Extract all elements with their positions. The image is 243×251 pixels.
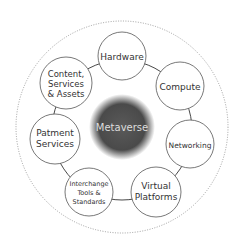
svg-text:Virtual: Virtual xyxy=(141,181,170,191)
svg-text:Services: Services xyxy=(48,79,84,89)
node-content: Content, Services & Assets xyxy=(40,57,92,109)
metaverse-diagram: Metaverse Hardware Compute Networking Vi… xyxy=(0,0,243,251)
svg-text:& Assets: & Assets xyxy=(48,89,86,99)
svg-text:Patment: Patment xyxy=(36,128,74,138)
metaverse-label: Metaverse xyxy=(96,122,148,133)
svg-text:Interchange: Interchange xyxy=(69,180,108,188)
svg-text:Compute: Compute xyxy=(159,82,201,92)
node-networking: Networking xyxy=(166,120,214,168)
svg-text:Networking: Networking xyxy=(169,141,212,150)
node-payment-services: Patment Services xyxy=(30,114,80,164)
svg-text:Platforms: Platforms xyxy=(135,192,178,202)
svg-text:Standards: Standards xyxy=(73,198,107,206)
node-compute: Compute xyxy=(156,62,204,110)
svg-text:Tools &: Tools & xyxy=(76,189,100,197)
svg-text:Hardware: Hardware xyxy=(100,52,144,62)
node-virtual-platforms: Virtual Platforms xyxy=(131,167,181,217)
svg-text:Content,: Content, xyxy=(48,69,85,79)
svg-text:Services: Services xyxy=(36,139,74,149)
node-hardware: Hardware xyxy=(98,32,146,80)
node-interchange: Interchange Tools & Standards xyxy=(65,168,113,216)
